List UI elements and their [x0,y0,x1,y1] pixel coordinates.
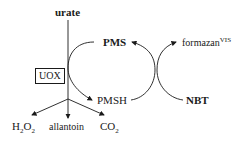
pms-label: PMS [103,37,126,48]
uox-enzyme-box: UOX [35,68,65,84]
co2-text: CO [100,120,115,132]
h2o2-sub2: 2 [31,127,35,135]
urate-label: urate [55,7,80,18]
co2-label: CO2 [100,121,119,135]
formazan-text: formazan [182,37,220,48]
h2o2-label: H2O2 [12,121,35,135]
arrow-h2o2 [32,99,68,115]
formazan-superscript: VIS [220,36,231,44]
allantoin-label: allantoin [49,122,84,132]
nbt-label: NBT [186,95,209,106]
curve-pms-to-pmsh [68,42,94,100]
curve-nbt-to-formazan [157,42,183,100]
curve-pmsh-to-pms [131,42,155,100]
pmsh-label: PMSH [97,95,127,106]
formazan-label: formazanVIS [182,37,231,48]
co2-sub: 2 [115,127,119,135]
h2o2-h: H [12,120,20,132]
uox-label: UOX [39,70,61,81]
